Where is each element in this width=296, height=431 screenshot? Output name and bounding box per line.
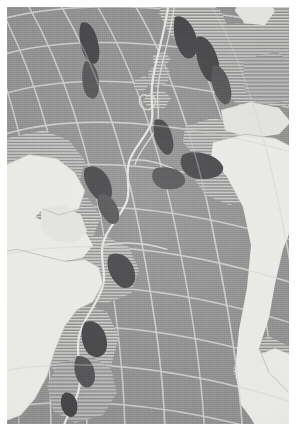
map-figure bbox=[0, 0, 296, 431]
map-svg bbox=[7, 7, 289, 424]
map-render-layer bbox=[7, 7, 289, 424]
map-plate[interactable] bbox=[7, 7, 289, 424]
